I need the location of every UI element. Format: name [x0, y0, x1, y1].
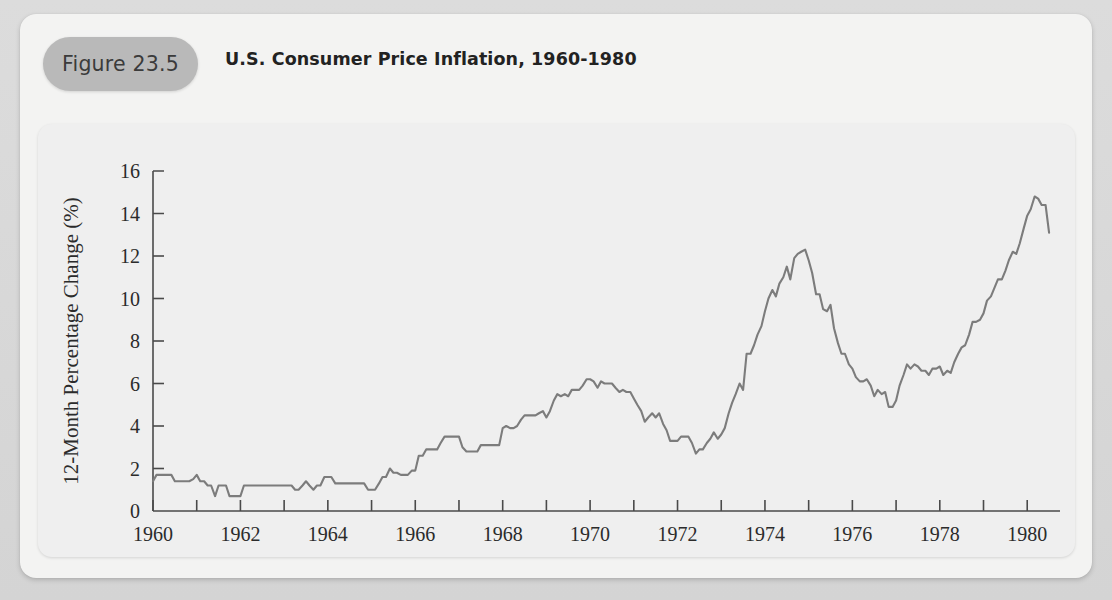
y-tick-label: 4: [130, 415, 140, 437]
series-line-0: [153, 197, 1049, 497]
y-tick-label: 8: [130, 330, 140, 352]
x-tick-label: 1966: [395, 523, 435, 545]
x-tick-label: 1964: [308, 523, 348, 545]
y-tick-label: 16: [120, 160, 140, 182]
figure-number-label: Figure 23.5: [43, 37, 198, 91]
x-tick-label: 1968: [483, 523, 523, 545]
x-tick-label: 1980: [1007, 523, 1047, 545]
x-tick-label: 1970: [570, 523, 610, 545]
figure-number-badge: Figure 23.5: [43, 37, 198, 91]
figure-title: U.S. Consumer Price Inflation, 1960-1980: [225, 49, 637, 69]
chart-panel: 0246810121416196019621964196619681970197…: [38, 124, 1075, 557]
y-tick-label: 12: [120, 245, 140, 267]
y-tick-label: 10: [120, 288, 140, 310]
x-tick-label: 1974: [745, 523, 785, 545]
figure-header: Figure 23.5 U.S. Consumer Price Inflatio…: [20, 14, 1092, 110]
line-chart: 0246810121416196019621964196619681970197…: [38, 124, 1075, 557]
y-tick-label: 2: [130, 458, 140, 480]
x-tick-label: 1962: [220, 523, 260, 545]
y-axis-title: 12-Month Percentage Change (%): [59, 197, 83, 485]
y-tick-label: 0: [130, 500, 140, 522]
x-tick-label: 1972: [658, 523, 698, 545]
x-tick-label: 1960: [133, 523, 173, 545]
figure-card: Figure 23.5 U.S. Consumer Price Inflatio…: [20, 14, 1092, 578]
y-tick-label: 6: [130, 373, 140, 395]
chart-svg: 0246810121416196019621964196619681970197…: [38, 124, 1075, 557]
x-tick-label: 1978: [920, 523, 960, 545]
x-tick-label: 1976: [832, 523, 872, 545]
y-tick-label: 14: [120, 203, 140, 225]
page-root: Figure 23.5 U.S. Consumer Price Inflatio…: [0, 0, 1112, 600]
